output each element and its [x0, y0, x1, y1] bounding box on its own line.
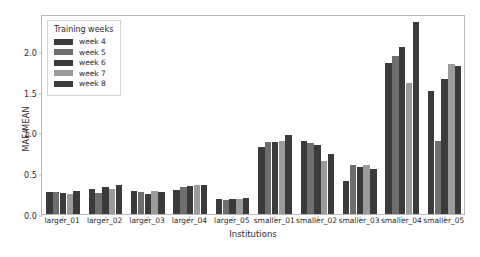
bar — [350, 165, 356, 214]
bar — [229, 199, 235, 214]
bar — [89, 189, 95, 214]
chart-legend: Training weeks week 4week 5week 6week 7w… — [47, 20, 121, 96]
x-axis-tick-label: smaller_05 — [423, 216, 464, 225]
bar — [216, 199, 222, 215]
x-axis-tick-label: larger_05 — [214, 216, 249, 225]
bar — [60, 193, 66, 214]
bar — [385, 63, 391, 214]
x-axis-tick-label: larger_01 — [44, 216, 79, 225]
legend-color-swatch — [54, 60, 73, 66]
legend-entry: week 8 — [54, 79, 113, 88]
bar — [95, 193, 101, 214]
bar — [441, 79, 447, 214]
legend-entry: week 7 — [54, 69, 113, 78]
bar — [194, 185, 200, 214]
bar — [187, 186, 193, 214]
bar — [46, 192, 52, 214]
legend-entry: week 4 — [54, 37, 113, 46]
bar — [258, 147, 264, 214]
y-axis-tick-mark — [39, 93, 42, 94]
bar — [243, 198, 249, 214]
bar — [131, 191, 137, 214]
legend-label: week 5 — [79, 48, 106, 57]
bar — [406, 83, 412, 214]
bar — [201, 185, 207, 214]
bar — [448, 64, 454, 214]
x-axis-label: Institutions — [41, 229, 465, 239]
bar — [455, 66, 461, 214]
bar — [357, 167, 363, 214]
bar — [370, 169, 376, 214]
bar — [413, 22, 419, 214]
bar — [53, 192, 59, 214]
x-axis-tick-label: smaller_02 — [296, 216, 337, 225]
legend-title: Training weeks — [54, 25, 113, 34]
bar — [435, 141, 441, 214]
bar — [223, 200, 229, 214]
bar — [307, 143, 313, 214]
bar — [285, 135, 291, 214]
bar — [301, 141, 307, 214]
x-axis-tick-label: larger_04 — [172, 216, 207, 225]
y-axis-tick-mark — [39, 134, 42, 135]
legend-entry: week 5 — [54, 48, 113, 57]
legend-entry: week 6 — [54, 58, 113, 67]
bar — [180, 187, 186, 214]
y-axis-tick-mark — [39, 175, 42, 176]
legend-label: week 6 — [79, 58, 106, 67]
x-axis-tick-label: smaller_01 — [254, 216, 295, 225]
x-axis-tick-label: larger_02 — [87, 216, 122, 225]
y-axis-label: MAE/MEAN — [22, 106, 31, 151]
bar — [363, 165, 369, 214]
x-axis-tick-label: larger_03 — [129, 216, 164, 225]
legend-color-swatch — [54, 81, 73, 87]
bar — [321, 161, 327, 214]
bar — [314, 145, 320, 214]
bar — [145, 194, 151, 214]
bar — [138, 192, 144, 214]
bar — [67, 194, 73, 214]
bar — [102, 187, 108, 214]
bar — [116, 185, 122, 214]
legend-label: week 4 — [79, 37, 106, 46]
bar — [151, 191, 157, 214]
y-axis-tick-mark — [39, 52, 42, 53]
bar — [109, 189, 115, 214]
bar — [173, 190, 179, 214]
legend-color-swatch — [54, 70, 73, 76]
bar — [279, 141, 285, 214]
x-axis-tick-label: smaller_04 — [381, 216, 422, 225]
x-axis-tick-label: smaller_03 — [339, 216, 380, 225]
bar — [343, 181, 349, 214]
bar — [328, 154, 334, 214]
legend-color-swatch — [54, 39, 73, 45]
bar — [428, 91, 434, 214]
bar — [158, 192, 164, 214]
bar — [272, 142, 278, 214]
legend-entries: week 4week 5week 6week 7week 8 — [54, 37, 113, 88]
chart-figure: MAE/MEAN 0.00.51.01.52.0 larger_01larger… — [0, 0, 480, 257]
legend-label: week 7 — [79, 69, 106, 78]
bar — [392, 56, 398, 214]
bar — [73, 191, 79, 214]
legend-label: week 8 — [79, 79, 106, 88]
bar — [265, 142, 271, 214]
bar — [399, 47, 405, 214]
bar — [236, 199, 242, 214]
legend-color-swatch — [54, 49, 73, 55]
x-axis-tick-labels: larger_01larger_02larger_03larger_04larg… — [41, 216, 465, 228]
